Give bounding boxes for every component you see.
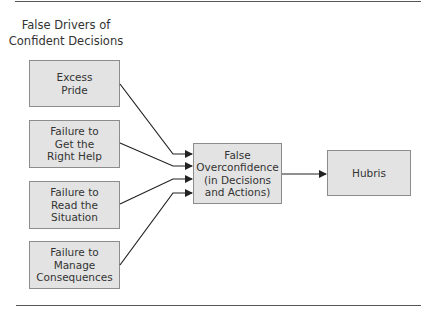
arrow-consequences-to-overconfidence xyxy=(120,193,192,265)
connector-arrows xyxy=(0,0,438,315)
arrow-pride-to-overconfidence xyxy=(120,84,192,154)
bottom-rule xyxy=(16,305,421,306)
arrow-situation-to-overconfidence xyxy=(120,179,192,204)
